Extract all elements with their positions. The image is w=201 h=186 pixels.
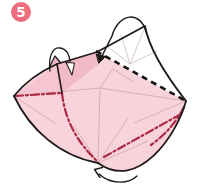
step-number: 5 bbox=[16, 4, 25, 20]
origami-diagram: 5 bbox=[0, 0, 201, 186]
step-badge: 5 bbox=[11, 2, 31, 22]
origami-step-panel: 5 bbox=[0, 0, 201, 186]
